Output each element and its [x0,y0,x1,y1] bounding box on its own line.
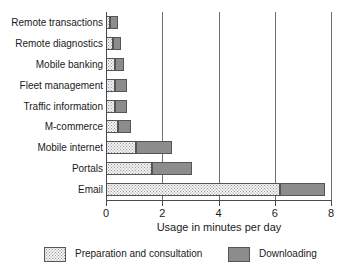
legend-label: Downloading [259,248,317,260]
legend-item: Downloading [228,245,317,263]
bar-segment-downloading [280,183,325,196]
x-axis-tick-label: 2 [147,206,177,220]
legend-label: Preparation and consultation [75,248,202,260]
category-label: Email [1,184,103,196]
bar-row [106,120,331,133]
category-label: M-commerce [1,121,103,133]
legend-item: Preparation and consultation [44,245,202,263]
bar-row [106,58,331,71]
bar-segment-preparation [106,183,280,196]
chart-legend: Preparation and consultationDownloading [0,245,346,269]
bar-segment-downloading [113,37,121,50]
x-axis-tick-label: 4 [204,206,234,220]
bar-segment-preparation [106,37,113,50]
category-axis: Remote transactionsRemote diagnosticsMob… [0,12,103,200]
bar-segment-downloading [115,58,124,71]
bar-segment-preparation [106,141,136,154]
usage-bar-chart: Remote transactionsRemote diagnosticsMob… [0,0,346,278]
bar-segment-downloading [115,100,127,113]
bar-segment-downloading [115,79,127,92]
bar-row [106,162,331,175]
category-label: Traffic information [1,101,103,113]
y-axis-line [106,12,107,200]
category-label: Mobile banking [1,59,103,71]
x-axis-tick-label: 0 [91,206,121,220]
bar-segment-preparation [106,162,152,175]
bar-row [106,183,331,196]
x-axis-tick-label: 6 [260,206,290,220]
bar-segment-downloading [152,162,191,175]
bar-segment-preparation [106,79,115,92]
bar-segment-downloading [118,120,131,133]
category-label: Fleet management [1,80,103,92]
bar-segment-downloading [136,141,173,154]
bar-row [106,16,331,29]
bar-row [106,100,331,113]
gridline [331,12,332,200]
bar-segment-preparation [106,58,115,71]
bar-segment-downloading [110,16,118,29]
bar-row [106,79,331,92]
x-axis-tick-label: 8 [316,206,346,220]
category-label: Mobile internet [1,142,103,154]
bar-row [106,37,331,50]
bar-segment-preparation [106,120,118,133]
category-label: Remote transactions [1,17,103,29]
legend-swatch-downloading [228,247,250,262]
bar-segment-preparation [106,100,115,113]
category-label: Portals [1,163,103,175]
x-axis-title: Usage in minutes per day [106,221,332,233]
plot-area [106,12,331,200]
category-label: Remote diagnostics [1,38,103,50]
legend-swatch-preparation [44,247,66,262]
bar-row [106,141,331,154]
